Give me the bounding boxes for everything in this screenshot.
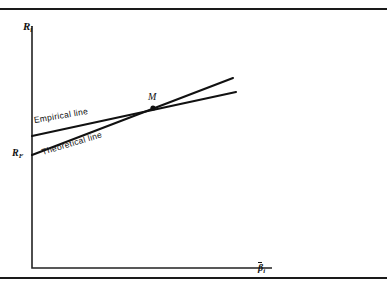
figure-container: Ri βi RF M Empirical line Theoretical li… [0,0,387,288]
bottom-rule-divider [0,277,387,279]
x-axis-label: βi [258,263,265,273]
y-axis-label: Ri [23,21,32,32]
risk-free-rate-subscript: F [19,152,24,159]
intersection-point-marker [150,105,155,110]
risk-free-rate-symbol: R [12,147,19,158]
intersection-point-label: M [148,92,156,102]
x-axis-label-subscript: i [263,267,265,274]
risk-free-rate-label: RF [12,148,23,158]
